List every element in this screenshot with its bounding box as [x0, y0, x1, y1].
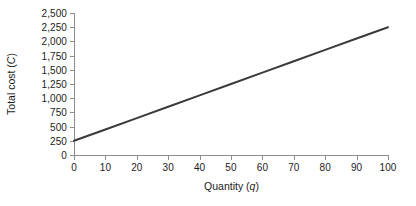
plot-area — [74, 13, 388, 155]
y-tick-label: 2,000 — [41, 36, 67, 47]
y-tick-label: 500 — [50, 121, 67, 132]
x-tick — [74, 156, 75, 160]
x-tick — [137, 156, 138, 160]
x-tick — [200, 156, 201, 160]
x-tick — [325, 156, 326, 160]
x-tick — [357, 156, 358, 160]
y-tick-label: 750 — [50, 107, 67, 118]
total-cost-polyline — [74, 27, 388, 141]
x-tick — [168, 156, 169, 160]
x-tick — [294, 156, 295, 160]
x-axis-title: Quantity (q) — [74, 180, 389, 192]
x-tick-label: 50 — [225, 162, 236, 173]
y-tick-label: 1,000 — [41, 93, 67, 104]
y-axis-title-text: Total cost ( — [5, 64, 17, 115]
y-axis-title-variable: C — [5, 57, 17, 65]
y-axis-title-tail: ) — [5, 53, 17, 57]
x-axis-title-tail: ) — [255, 180, 259, 192]
x-tick-label: 90 — [351, 162, 362, 173]
y-axis-title: Total cost (C) — [4, 13, 18, 155]
x-tick — [388, 156, 389, 160]
x-tick — [262, 156, 263, 160]
x-tick-label: 70 — [288, 162, 299, 173]
x-tick-label: 40 — [194, 162, 205, 173]
x-tick-label: 20 — [131, 162, 142, 173]
y-tick-label: 0 — [61, 150, 67, 161]
y-tick-label: 1,250 — [41, 79, 67, 90]
x-tick — [231, 156, 232, 160]
y-tick-label: 1,500 — [41, 64, 67, 75]
x-tick-label: 0 — [71, 162, 77, 173]
total-cost-line — [74, 13, 388, 155]
x-tick-label: 10 — [100, 162, 111, 173]
x-tick-label: 100 — [380, 162, 397, 173]
x-tick-label: 60 — [257, 162, 268, 173]
x-tick-label: 80 — [320, 162, 331, 173]
x-tick-label: 30 — [163, 162, 174, 173]
x-tick — [105, 156, 106, 160]
y-tick-label: 1,750 — [41, 50, 67, 61]
chart-figure: Total cost (C) 02505007501,0001,2501,500… — [0, 0, 416, 206]
y-tick-label: 250 — [50, 135, 67, 146]
y-tick-label: 2,250 — [41, 22, 67, 33]
x-axis-title-text: Quantity ( — [204, 180, 250, 192]
y-tick-label: 2,500 — [41, 8, 67, 19]
